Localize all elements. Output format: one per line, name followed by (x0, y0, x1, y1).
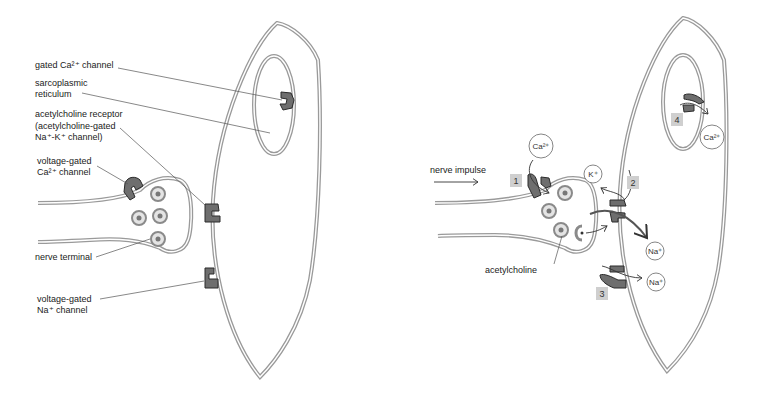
label-vg-na-1: voltage-gated (37, 294, 92, 304)
label-sarcoplasmic-2: reticulum (35, 89, 72, 99)
step-1: 1 (510, 174, 522, 187)
step-2: 2 (627, 176, 639, 189)
ion-ca-top: Ca²⁺ (529, 134, 553, 158)
ach-receptor-top-icon (610, 200, 626, 206)
muscle-cell-right (619, 18, 726, 371)
step-4: 4 (671, 113, 683, 126)
ion-ca-sr: Ca²⁺ (700, 125, 724, 149)
svg-text:Ca²⁺: Ca²⁺ (533, 142, 550, 151)
svg-text:2: 2 (630, 178, 635, 188)
label-gated-ca-channel: gated Ca²⁺ channel (35, 60, 114, 70)
label-nerve-impulse: nerve impulse (430, 165, 486, 175)
vg-na-channel-bottom-icon (600, 274, 626, 288)
step-3: 3 (596, 287, 608, 300)
ion-na-2: Na⁺ (647, 273, 665, 291)
svg-text:Na⁺: Na⁺ (648, 247, 662, 256)
right-panel: Ca²⁺ K⁺ Na⁺ Na⁺ Ca²⁺ 1 2 3 (430, 18, 726, 371)
neuromuscular-junction-diagram: gated Ca²⁺ channel sarcoplasmic reticulu… (0, 0, 761, 394)
sr-ca-channel-bottom-icon (683, 105, 694, 112)
muscle-cell-left (213, 23, 320, 377)
nerve-terminal-right (435, 178, 596, 252)
svg-text:Ca²⁺: Ca²⁺ (704, 133, 721, 142)
vg-ca-channel-gate-icon (541, 177, 551, 188)
label-acetylcholine: acetylcholine (485, 265, 537, 275)
svg-text:3: 3 (599, 289, 604, 299)
ach-receptor-channel-icon (205, 204, 220, 222)
svg-text:1: 1 (513, 176, 518, 186)
vg-na-channel-top-icon (610, 266, 624, 272)
nerve-terminal-left (38, 178, 191, 252)
label-sarcoplasmic-1: sarcoplasmic (35, 78, 88, 88)
label-ach-receptor-2: (acetylcholine-gated (35, 121, 116, 131)
svg-text:4: 4 (674, 115, 679, 125)
label-nerve-terminal: nerve terminal (35, 252, 92, 262)
synaptic-vesicles-right (542, 186, 584, 240)
label-ach-receptor-1: acetylcholine receptor (35, 109, 123, 119)
svg-text:K⁺: K⁺ (588, 170, 597, 179)
ion-k: K⁺ (584, 165, 602, 183)
svg-text:Na⁺: Na⁺ (649, 278, 663, 287)
left-panel: gated Ca²⁺ channel sarcoplasmic reticulu… (35, 23, 320, 377)
label-vg-ca-1: voltage-gated (37, 156, 92, 166)
leader-acetylcholine (554, 236, 562, 264)
label-vg-ca-2: Ca²⁺ channel (37, 167, 91, 177)
synaptic-vesicles (132, 187, 167, 246)
gated-ca-channel-sr-icon (280, 92, 294, 110)
label-vg-na-2: Na⁺ channel (37, 305, 88, 315)
label-ach-receptor-3: Na⁺-K⁺ channel) (35, 132, 103, 142)
ion-na-1: Na⁺ (646, 242, 664, 260)
